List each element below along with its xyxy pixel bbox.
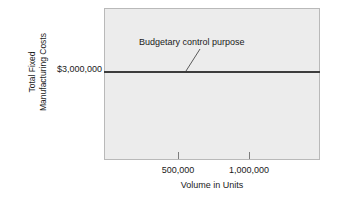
y-axis-title-line-1: Total Fixed bbox=[27, 6, 38, 138]
annotation-leader-line bbox=[180, 46, 208, 74]
y-axis-tick-label: $3,000,000 bbox=[46, 64, 102, 75]
x-axis-tick-label-1: 500,000 bbox=[162, 165, 195, 176]
fixed-cost-chart: Total Fixed Manufacturing Costs $3,000,0… bbox=[0, 0, 338, 206]
fixed-cost-line bbox=[104, 71, 320, 73]
x-axis-tick-label-2: 1,000,000 bbox=[229, 165, 269, 176]
x-axis-tick-2 bbox=[249, 152, 250, 159]
x-axis-title: Volume in Units bbox=[104, 180, 320, 191]
x-axis-tick-1 bbox=[178, 152, 179, 159]
plot-area bbox=[104, 8, 320, 160]
